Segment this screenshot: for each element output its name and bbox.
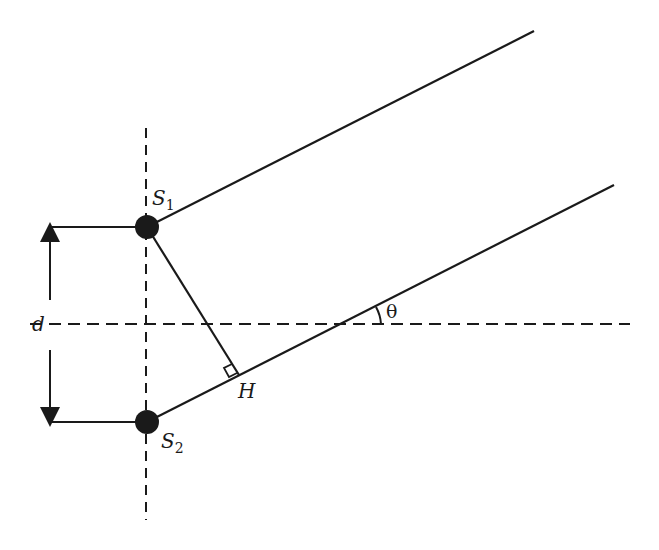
- interference-diagram: S1 S2 H d θ: [0, 0, 659, 550]
- perpendicular-s1-h: [147, 227, 239, 375]
- source-s1-dot: [135, 215, 159, 239]
- label-s2: S2: [161, 429, 184, 456]
- label-theta: θ: [386, 300, 397, 322]
- label-s1: S1: [152, 186, 175, 213]
- source-s2-dot: [135, 410, 159, 434]
- label-d: d: [32, 312, 45, 336]
- label-h: H: [237, 379, 256, 403]
- ray-from-s2: [147, 185, 614, 422]
- angle-arc: [376, 307, 381, 324]
- ray-from-s1: [147, 31, 534, 227]
